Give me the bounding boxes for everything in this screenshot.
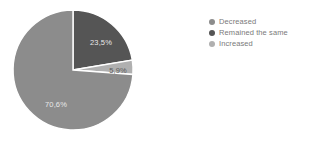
chart-legend: Decreased Remained the same Increased	[209, 16, 309, 49]
legend-item-increased[interactable]: Increased	[209, 38, 309, 49]
pie-slice-value-decreased: 70,6%	[45, 100, 67, 109]
legend-item-label: Remained the same	[219, 27, 288, 38]
legend-item-remained-the-same[interactable]: Remained the same	[209, 27, 309, 38]
pie-chart-svg: 23,5% 5,9% 70,6%	[8, 5, 143, 142]
pie-chart-figure: 23,5% 5,9% 70,6% Decreased Remained the …	[0, 0, 315, 147]
legend-item-decreased[interactable]: Decreased	[209, 16, 309, 27]
legend-item-label: Decreased	[219, 16, 256, 27]
circle-swatch-icon	[209, 41, 215, 47]
pie-plot-area: 23,5% 5,9% 70,6%	[8, 5, 143, 142]
pie-slice-value-increased: 5,9%	[109, 66, 127, 75]
legend-item-label: Increased	[219, 38, 253, 49]
pie-slice-value-remained-the-same: 23,5%	[90, 38, 112, 47]
circle-swatch-icon	[209, 30, 215, 36]
circle-swatch-icon	[209, 19, 215, 25]
